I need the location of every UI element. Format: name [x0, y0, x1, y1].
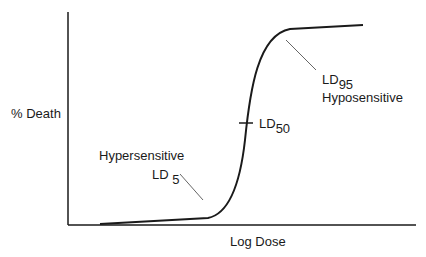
hyposensitive-label: Hyposensitive [322, 91, 403, 104]
dose-response-curve [100, 25, 363, 224]
ld95-label: LD95 [322, 73, 353, 86]
hypersensitive-label: Hypersensitive [99, 149, 184, 162]
ld5-label: LD 5 [152, 168, 179, 181]
ld95-leader [286, 40, 316, 70]
chart-canvas [0, 0, 426, 257]
x-axis-label: Log Dose [230, 235, 286, 248]
ld5-leader [180, 174, 203, 200]
y-axis-label: % Death [11, 107, 61, 120]
ld50-label: LD50 [259, 117, 290, 130]
